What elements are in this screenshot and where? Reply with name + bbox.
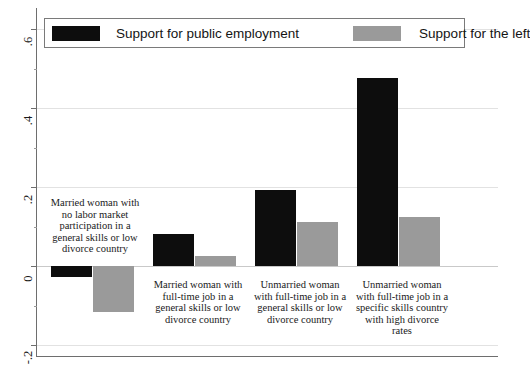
bar-g4-public-employment — [357, 78, 398, 266]
y-tick-major — [31, 108, 37, 109]
y-tick-major — [31, 345, 37, 346]
y-axis-tick-label: .6 — [21, 30, 36, 54]
bar-g3-support-left — [297, 222, 338, 266]
y-tick-minor — [34, 69, 38, 70]
y-axis-label-group: .2 — [4, 180, 28, 194]
bar-g1-support-left — [93, 266, 134, 312]
y-tick-minor — [34, 227, 38, 228]
bar-g1-public-employment — [51, 266, 92, 277]
y-axis-label-group: .6 — [4, 22, 28, 36]
gridline--0.2 — [37, 345, 498, 346]
y-axis-tick-label: .2 — [21, 188, 36, 212]
category-label-1: Married woman with no labor market parti… — [47, 197, 143, 255]
y-tick-major — [31, 187, 37, 188]
bar-g2-support-left — [195, 256, 236, 266]
gridline-0.2 — [37, 187, 498, 188]
y-tick-minor — [34, 306, 38, 307]
category-label-4: Unmarried woman with full-time job in a … — [354, 279, 450, 337]
category-label-3: Unmarried woman with full-time job in a … — [252, 279, 348, 325]
y-tick-minor — [34, 148, 38, 149]
y-axis-tick-label: -.2 — [21, 346, 36, 370]
legend-label-support-left: Support for the left — [419, 26, 530, 41]
y-tick-major — [31, 266, 37, 267]
y-axis-label-group: 0 — [4, 259, 28, 273]
legend-label-public-employment: Support for public employment — [116, 26, 299, 41]
y-axis-tick-label: 0 — [21, 267, 36, 291]
bar-g3-public-employment — [255, 190, 296, 266]
y-tick-major — [31, 29, 37, 30]
gridline-0.4 — [37, 108, 498, 109]
gray-swatch-icon — [353, 26, 401, 41]
black-swatch-icon — [52, 26, 100, 41]
legend: Support for public employment Support fo… — [44, 18, 465, 48]
legend-entry-public-employment: Support for public employment — [52, 19, 299, 47]
category-label-2: Married woman with full-time job in a ge… — [150, 279, 246, 325]
y-axis-tick-label: .4 — [21, 109, 36, 133]
y-axis-label-group: .4 — [4, 101, 28, 115]
bar-g4-support-left — [399, 217, 440, 266]
legend-entry-support-left: Support for the left — [353, 19, 530, 47]
y-axis-label-group: -.2 — [4, 338, 28, 352]
bar-g2-public-employment — [153, 234, 194, 266]
